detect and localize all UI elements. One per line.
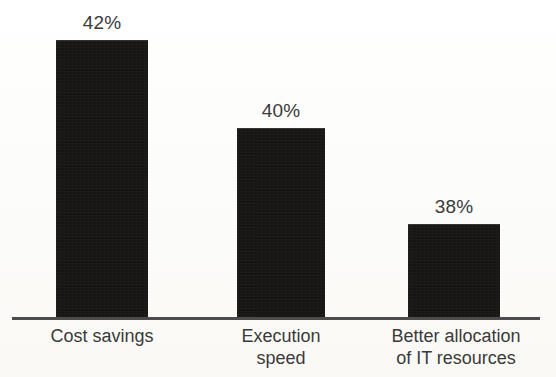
category-label-cost-savings: Cost savings bbox=[36, 325, 168, 347]
plot-area: 42% 40% 38% bbox=[0, 0, 556, 318]
value-label-cost-savings: 42% bbox=[56, 12, 148, 34]
value-label-better-allocation: 38% bbox=[408, 196, 500, 218]
bar-execution-speed bbox=[237, 128, 325, 318]
value-label-execution-speed: 40% bbox=[237, 100, 325, 122]
category-axis-labels: Cost savings Execution speed Better allo… bbox=[0, 325, 556, 377]
category-label-better-allocation: Better allocation of IT resources bbox=[378, 325, 534, 369]
bar-chart: 42% 40% 38% Cost savings Execution speed… bbox=[0, 0, 556, 377]
bar-better-allocation-of-it-resources bbox=[408, 224, 500, 318]
bar-cost-savings bbox=[56, 40, 148, 318]
category-label-execution-speed: Execution speed bbox=[212, 325, 350, 369]
x-axis-baseline bbox=[12, 317, 540, 320]
